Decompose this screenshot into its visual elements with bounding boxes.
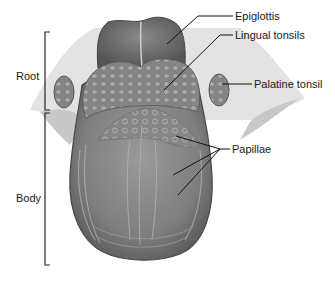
tongue-illustration <box>0 0 335 284</box>
root-label: Root <box>16 70 39 82</box>
lingual-tonsils-label: Lingual tonsils <box>235 29 305 41</box>
body-label: Body <box>16 192 41 204</box>
papillae-label: Papillae <box>232 143 271 155</box>
palatine-tonsil-right <box>209 74 229 106</box>
palatine-tonsil-label: Palatine tonsil <box>254 78 323 90</box>
epiglottis-label: Epiglottis <box>235 10 280 22</box>
palatine-tonsil-left <box>54 76 74 108</box>
tongue-diagram: Epiglottis Lingual tonsils Palatine tons… <box>0 0 335 284</box>
body-bracket <box>45 113 50 265</box>
